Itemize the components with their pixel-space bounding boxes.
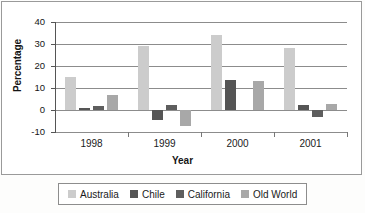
plot-area: 403020100-10 1998199920002001 xyxy=(55,22,347,132)
legend-item-california[interactable]: California xyxy=(176,189,230,200)
legend-label: Chile xyxy=(142,189,165,200)
chart-figure: Percentage Year 403020100-10 19981999200… xyxy=(0,0,365,213)
y-tick-label-40: 40 xyxy=(5,16,45,27)
y-tick-label--10: -10 xyxy=(5,126,45,137)
x-tick-label-1998: 1998 xyxy=(62,138,122,149)
bar-group-1998 xyxy=(55,22,128,132)
x-axis-separator-3 xyxy=(347,132,348,137)
bar-california-1998 xyxy=(93,106,105,110)
y-tick-label-10: 10 xyxy=(5,82,45,93)
bar-australia-2000 xyxy=(211,35,223,110)
bar-old-world-1998 xyxy=(107,95,119,110)
legend-label: Australia xyxy=(80,189,119,200)
y-tick-label-20: 20 xyxy=(5,60,45,71)
legend-swatch-icon xyxy=(241,190,249,198)
x-axis-separator-0 xyxy=(128,132,129,137)
legend-item-old-world[interactable]: Old World xyxy=(241,189,297,200)
bar-chile-1998 xyxy=(79,108,91,110)
x-axis-title: Year xyxy=(0,155,365,166)
bar-group-2001 xyxy=(274,22,347,132)
legend-label: Old World xyxy=(253,189,297,200)
x-axis-separator-1 xyxy=(201,132,202,137)
bar-australia-2001 xyxy=(284,48,296,110)
bar-chile-2000 xyxy=(225,80,237,110)
bar-australia-1998 xyxy=(65,77,77,110)
bar-chile-1999 xyxy=(152,110,164,120)
legend-swatch-icon xyxy=(130,190,138,198)
x-tick-label-1999: 1999 xyxy=(135,138,195,149)
bar-old-world-2001 xyxy=(326,104,338,110)
bar-old-world-1999 xyxy=(180,110,192,126)
bar-old-world-2000 xyxy=(253,81,265,110)
bar-chile-2001 xyxy=(298,105,310,110)
legend-swatch-icon xyxy=(68,190,76,198)
legend-item-australia[interactable]: Australia xyxy=(68,189,119,200)
bar-california-2001 xyxy=(312,110,324,117)
bar-group-2000 xyxy=(201,22,274,132)
legend-swatch-icon xyxy=(176,190,184,198)
y-tick-label-0: 0 xyxy=(5,104,45,115)
bar-group-1999 xyxy=(128,22,201,132)
y-tick-label-30: 30 xyxy=(5,38,45,49)
x-axis-separator-2 xyxy=(274,132,275,137)
legend-label: California xyxy=(188,189,230,200)
bar-california-1999 xyxy=(166,105,178,110)
bar-australia-1999 xyxy=(138,46,150,110)
x-tick-label-2000: 2000 xyxy=(208,138,268,149)
legend-item-chile[interactable]: Chile xyxy=(130,189,165,200)
x-tick-label-2001: 2001 xyxy=(281,138,341,149)
chart-legend: AustraliaChileCaliforniaOld World xyxy=(58,183,307,205)
y-tick-mark--10 xyxy=(51,132,56,133)
